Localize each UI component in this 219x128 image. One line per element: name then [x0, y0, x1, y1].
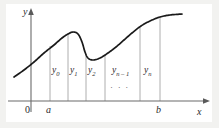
ordinate-label-y0: y0: [52, 66, 59, 77]
figure-container: y x 0 a b y0 y1 y2 yn – 1 yn · · ·: [0, 0, 219, 128]
ordinate-label-yn-1: yn – 1: [112, 66, 129, 77]
y-axis-label: y: [23, 7, 27, 17]
plot-background: [6, 4, 212, 122]
ordinate-label-yn: yn: [144, 66, 151, 77]
ordinate-label-yn-sub: n: [148, 70, 151, 77]
upper-bound-label-b: b: [156, 105, 161, 115]
ordinate-label-y0-sub: 0: [56, 70, 59, 77]
ordinate-label-yn-1-sub: n – 1: [116, 70, 129, 77]
lower-bound-label-a: a: [46, 105, 51, 115]
ordinate-label-y2-sub: 2: [92, 70, 95, 77]
ordinate-label-y1: y1: [70, 66, 77, 77]
ellipsis-label: · · ·: [110, 82, 130, 92]
plot-svg: [0, 0, 219, 128]
origin-label: 0: [25, 105, 30, 115]
x-axis-label: x: [197, 107, 201, 117]
ordinate-label-y2: y2: [88, 66, 95, 77]
ordinate-label-y1-sub: 1: [74, 70, 77, 77]
